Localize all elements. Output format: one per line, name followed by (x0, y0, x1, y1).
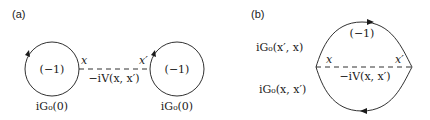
loop-factor: (−1) (350, 27, 375, 40)
left-loop-propagator: iG₀(0) (36, 100, 68, 113)
interaction-label: −iV(x, x′) (339, 70, 390, 83)
arrow-icon (25, 50, 30, 57)
arrow-right-icon (367, 19, 374, 25)
panel-b: (b) x x′ −iV(x, x′) (−1) iG₀(x′, x) iG₀(… (251, 8, 412, 114)
interaction-label: −iV(x, x′) (88, 72, 139, 85)
panel-b-label: (b) (251, 8, 264, 20)
arrow-icon (151, 50, 156, 57)
vertex-x-label: x (326, 53, 333, 66)
upper-propagator-label: iG₀(x′, x) (256, 41, 303, 54)
right-loop-propagator: iG₀(0) (161, 100, 193, 113)
right-loop-factor: (−1) (165, 63, 190, 76)
arrow-left-icon (360, 108, 367, 114)
left-loop-factor: (−1) (40, 63, 65, 76)
feynman-diagrams: (a) (−1) iG₀(0) x x′ −iV(x, x′) (−1) iG₀… (0, 0, 430, 120)
panel-a: (a) (−1) iG₀(0) x x′ −iV(x, x′) (−1) iG₀… (12, 8, 204, 113)
panel-a-label: (a) (12, 8, 25, 20)
lower-propagator-label: iG₀(x, x′) (259, 83, 306, 96)
vertex-xprime-label: x′ (395, 53, 404, 66)
vertex-x-label: x (81, 54, 88, 67)
vertex-xprime-label: x′ (139, 54, 148, 67)
